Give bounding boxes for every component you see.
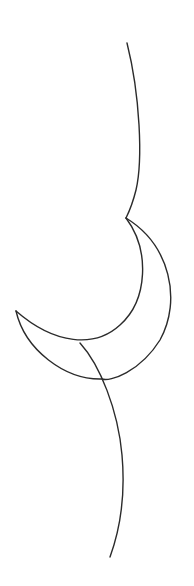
line-drawing-canvas (0, 0, 194, 586)
line-art-svg (0, 0, 194, 586)
crescent-inner-line (16, 218, 143, 340)
lower-stem-line (80, 343, 123, 557)
upper-curve-line (126, 43, 140, 218)
crescent-outer-line (16, 218, 171, 380)
